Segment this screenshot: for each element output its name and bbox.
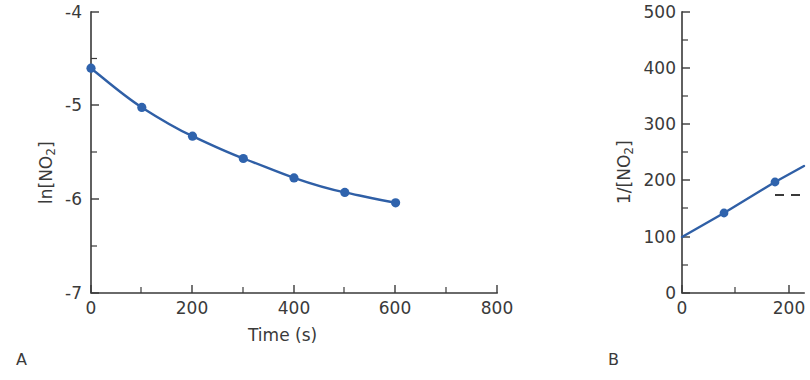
- panel-b-plot: [520, 0, 804, 380]
- panel-a-x-tick-label-0: 0: [66, 300, 116, 317]
- panel-a-label: A: [16, 352, 27, 368]
- panel-a-axes: [91, 12, 497, 293]
- panel-b-y-tick-label-1: 400: [624, 60, 676, 77]
- panel-a-data-curve: [91, 68, 396, 203]
- panel-b-y-minor-ticks: [682, 40, 688, 265]
- panel-a-y-minor-ticks: [91, 59, 97, 247]
- panel-a-x-axis-title: Time (s): [248, 327, 317, 344]
- panel-b-y-tick-label-0: 500: [624, 4, 676, 21]
- panel-a-x-ticks: [91, 285, 497, 293]
- panel-a-x-tick-label-4: 800: [472, 300, 522, 317]
- panel-a-y-tick-label-0: -4: [46, 4, 82, 21]
- panel-b-x-ticks: [682, 285, 789, 293]
- panel-b-axes: [682, 12, 804, 293]
- panel-b-x-tick-label-0: 0: [657, 300, 707, 317]
- panel-b-data-line: [682, 166, 804, 237]
- panel-b-y-tick-label-4: 100: [624, 229, 676, 246]
- panel-b-x-tick-label-1: 200: [764, 300, 810, 317]
- panel-b-label: B: [608, 352, 619, 368]
- panel-b-y-tick-label-2: 300: [624, 116, 676, 133]
- panel-a-x-tick-label-1: 200: [167, 300, 217, 317]
- panel-a-y-tick-label-1: -5: [46, 97, 82, 114]
- panel-a-data-points: [86, 64, 400, 208]
- panel-a-x-tick-label-3: 600: [370, 300, 420, 317]
- panel-a: -4 -5 -6 -7 0 200 400 600 800 ln[NO2] Ti…: [0, 0, 520, 380]
- panel-a-x-tick-label-2: 400: [269, 300, 319, 317]
- panel-a-y-axis-title: ln[NO2]: [38, 141, 55, 204]
- panel-b-y-axis-title: 1/[NO2]: [616, 140, 633, 204]
- panel-b: 500 400 300 200 100 0 0 200 1/[NO2] B: [520, 0, 804, 380]
